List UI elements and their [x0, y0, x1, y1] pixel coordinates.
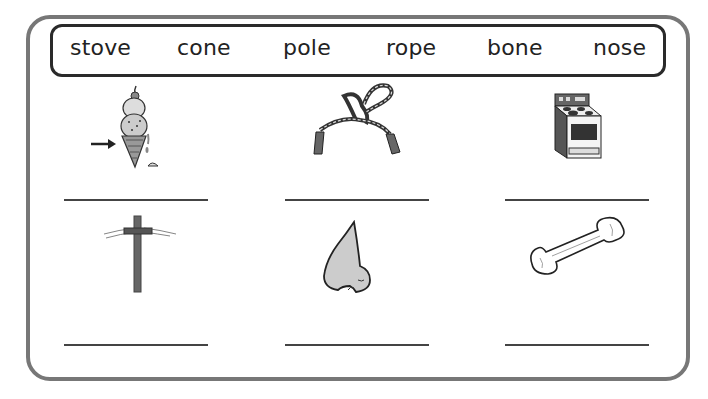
jump-rope-icon	[310, 82, 406, 162]
bone-icon	[528, 216, 628, 276]
stove-icon	[553, 92, 605, 160]
answer-line-6[interactable]	[505, 344, 649, 346]
telephone-pole-icon	[100, 214, 180, 294]
word-pole: pole	[283, 35, 331, 60]
word-nose: nose	[593, 35, 646, 60]
answer-line-3[interactable]	[505, 199, 649, 201]
nose-icon	[320, 220, 376, 296]
word-bank: stove cone pole rope bone nose	[50, 24, 666, 77]
ice-cream-cone-icon	[88, 82, 168, 172]
answer-line-1[interactable]	[64, 199, 208, 201]
answer-line-5[interactable]	[285, 344, 429, 346]
answer-line-2[interactable]	[285, 199, 429, 201]
word-rope: rope	[386, 35, 436, 60]
answer-line-4[interactable]	[64, 344, 208, 346]
word-stove: stove	[70, 35, 131, 60]
word-bone: bone	[487, 35, 543, 60]
word-cone: cone	[177, 35, 231, 60]
